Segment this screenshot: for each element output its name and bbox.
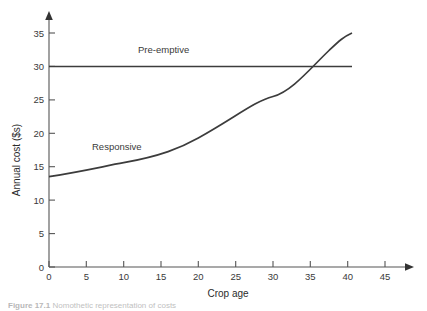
figure-caption: Figure 17.1 Nomothetic representation of… [8,301,419,311]
x-tick-label: 0 [46,271,51,282]
x-axis-title: Crop age [207,288,249,299]
y-tick-label: 20 [33,128,44,139]
x-tick-label: 20 [193,271,204,282]
x-axis-tick-labels: 0 5 10 15 20 25 30 35 40 45 [46,271,390,282]
x-tick-label: 35 [305,271,316,282]
y-tick-label: 15 [33,161,44,172]
x-tick-label: 10 [118,271,129,282]
x-tick-label: 45 [380,271,391,282]
series-label-responsive: Responsive [92,141,142,152]
x-tick-label: 5 [84,271,89,282]
y-axis-ticks [49,33,55,267]
y-axis-title: Annual cost ($s) [11,124,22,196]
x-axis-arrow-icon [405,263,414,271]
y-tick-label: 0 [39,262,44,273]
y-tick-label: 35 [33,28,44,39]
series-curve-responsive [49,33,352,177]
figure-caption-number: Figure 17.1 [8,301,50,310]
y-tick-label: 30 [33,61,44,72]
y-tick-label: 10 [33,195,44,206]
x-tick-label: 25 [230,271,241,282]
figure-caption-text: Nomothetic representation of costs [52,301,176,310]
y-tick-label: 5 [39,228,44,239]
y-tick-label: 25 [33,94,44,105]
y-axis-tick-labels: 0 5 10 15 20 25 30 35 [33,28,44,273]
x-tick-label: 40 [342,271,353,282]
series-label-pre-emptive: Pre-emptive [138,44,189,55]
x-tick-label: 15 [156,271,167,282]
x-tick-label: 30 [268,271,279,282]
y-axis-arrow-icon [45,11,53,20]
x-axis-ticks [49,261,385,267]
